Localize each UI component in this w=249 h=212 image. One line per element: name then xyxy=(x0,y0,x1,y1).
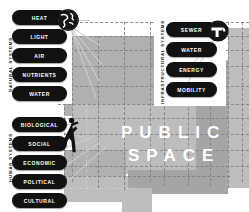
grid-line-v xyxy=(124,22,125,190)
center-word-space: SPACE xyxy=(128,147,220,164)
pill-label: LIGHT xyxy=(31,34,49,40)
globe-icon xyxy=(57,9,79,31)
pill-social[interactable]: SOCIAL xyxy=(12,136,67,151)
pill-biological[interactable]: BIOLOGICAL xyxy=(12,117,67,132)
center-word-public: PUBLIC xyxy=(121,124,226,141)
pill-label: SOCIAL xyxy=(28,141,51,147)
massing-block-right-edge xyxy=(228,28,249,188)
pill-label: ENERGY xyxy=(179,67,204,73)
pill-label: MOBILITY xyxy=(177,87,206,93)
pill-label: CULTURAL xyxy=(24,198,56,204)
faucet-icon xyxy=(207,20,229,42)
grid-line-v xyxy=(228,22,229,188)
pill-energy[interactable]: ENERGY xyxy=(166,62,217,77)
group-caption-infrastructural: INFRASTRUCTURAL SYSTEMS xyxy=(160,20,165,104)
grid-line-v xyxy=(86,104,87,188)
pill-political[interactable]: POLITICAL xyxy=(12,174,67,189)
panel-gap-left xyxy=(0,100,58,112)
pill-water-infra[interactable]: WATER xyxy=(166,42,217,57)
pill-nutrients[interactable]: NUTRIENTS xyxy=(12,67,67,82)
pedestrian-icon xyxy=(60,117,80,153)
pill-label: SEWER xyxy=(181,27,202,33)
pill-label: AIR xyxy=(34,53,44,59)
pill-label: POLITICAL xyxy=(24,179,56,185)
grid-line-h xyxy=(34,166,249,167)
pill-label: HEAT xyxy=(32,15,48,21)
pill-label: ECONOMIC xyxy=(23,160,55,166)
pill-water-natural[interactable]: WATER xyxy=(12,86,67,101)
pill-label: WATER xyxy=(181,47,202,53)
group-caption-natural: NATURAL SYSTEMS xyxy=(8,37,13,92)
pill-label: WATER xyxy=(29,91,50,97)
pill-mobility[interactable]: MOBILITY xyxy=(166,82,217,97)
pill-light[interactable]: LIGHT xyxy=(12,29,67,44)
grid-line-v xyxy=(72,22,73,182)
pill-cultural[interactable]: CULTURAL xyxy=(12,193,67,208)
massing-block-pad xyxy=(122,188,152,212)
pill-air[interactable]: AIR xyxy=(12,48,67,63)
pill-label: BIOLOGICAL xyxy=(21,122,58,128)
diagram-canvas: NATURAL SYSTEMS HEAT LIGHT AIR NUTRIENTS… xyxy=(0,0,249,212)
grid-line-v xyxy=(242,22,243,182)
pill-label: NUTRIENTS xyxy=(22,72,56,78)
pill-economic[interactable]: ECONOMIC xyxy=(12,155,67,170)
